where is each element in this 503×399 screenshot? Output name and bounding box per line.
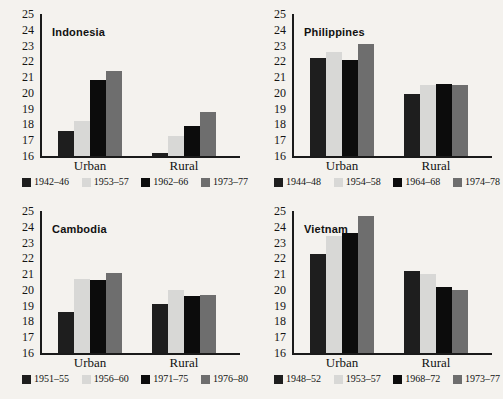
legend-item: 1953–57: [82, 177, 129, 187]
legend-label: 1953–57: [346, 374, 381, 384]
bar: [358, 216, 374, 353]
y-axis-tick-label: 23: [252, 40, 286, 52]
legend-label: 1942–46: [34, 177, 69, 187]
legend-swatch-icon: [141, 178, 150, 187]
y-axis-tick-label: 17: [0, 331, 34, 343]
bar-group-urban: [58, 14, 122, 156]
y-axis-tick-label: 24: [252, 221, 286, 233]
legend-label: 1971–75: [153, 374, 188, 384]
bar: [436, 287, 452, 353]
y-axis-tick-label: 17: [252, 134, 286, 146]
x-axis-line: [292, 353, 492, 355]
legend-swatch-icon: [82, 375, 91, 384]
y-axis-tick-label: 24: [252, 24, 286, 36]
x-axis-category-label: Rural: [401, 159, 471, 173]
chart-panel-vietnam: 16171819202122232425VietnamUrbanRural194…: [252, 197, 503, 396]
plot-area: [40, 211, 238, 353]
y-axis-tick-label: 16: [0, 347, 34, 359]
x-axis-line: [40, 353, 240, 355]
legend: 1944–481954–581964–681974–78: [274, 177, 500, 187]
bar: [74, 121, 90, 156]
bar: [200, 112, 216, 156]
bar: [106, 273, 122, 353]
y-axis-tick-label: 20: [252, 87, 286, 99]
legend-item: 1974–78: [453, 177, 500, 187]
legend-item: 1964–68: [393, 177, 440, 187]
plot-area: [292, 211, 490, 353]
y-axis-tick-label: 18: [252, 118, 286, 130]
y-axis-tick-label: 20: [0, 87, 34, 99]
bar: [420, 85, 436, 156]
y-axis-tick-label: 21: [252, 71, 286, 83]
x-axis-category-label: Urban: [307, 356, 377, 370]
bar: [58, 312, 74, 353]
y-axis-tick-label: 25: [252, 8, 286, 20]
legend-swatch-icon: [334, 375, 343, 384]
y-axis-tick-label: 22: [0, 252, 34, 264]
bar: [452, 85, 468, 156]
x-axis-category-label: Rural: [149, 356, 219, 370]
legend: 1948–521953–571968–721973–77: [274, 374, 500, 384]
y-axis-tick-label: 16: [252, 347, 286, 359]
bar-group-rural: [152, 211, 216, 353]
bar: [90, 80, 106, 156]
plot-area: [40, 14, 238, 156]
legend-swatch-icon: [82, 178, 91, 187]
legend-item: 1954–58: [334, 177, 381, 187]
legend-item: 1973–77: [453, 374, 500, 384]
bar: [404, 94, 420, 156]
bar: [74, 279, 90, 353]
legend-label: 1944–48: [286, 177, 321, 187]
legend: 1951–551956–601971–751976–80: [22, 374, 248, 384]
legend-label: 1948–52: [286, 374, 321, 384]
legend-swatch-icon: [141, 375, 150, 384]
legend-swatch-icon: [453, 375, 462, 384]
legend-swatch-icon: [274, 178, 283, 187]
x-axis-line: [292, 156, 492, 158]
y-axis-tick-label: 18: [252, 315, 286, 327]
bar: [358, 44, 374, 156]
legend-item: 1973–77: [201, 177, 248, 187]
legend-item: 1976–80: [201, 374, 248, 384]
y-axis-tick-label: 19: [0, 300, 34, 312]
chart-sheet: 16171819202122232425IndonesiaUrbanRural1…: [0, 0, 503, 399]
legend-swatch-icon: [453, 178, 462, 187]
bar: [90, 280, 106, 353]
bar: [58, 131, 74, 156]
y-axis-tick-label: 19: [252, 300, 286, 312]
bar: [342, 60, 358, 156]
bar: [452, 290, 468, 353]
chart-panel-indonesia: 16171819202122232425IndonesiaUrbanRural1…: [0, 0, 251, 199]
y-axis-tick-label: 19: [0, 103, 34, 115]
legend-swatch-icon: [334, 178, 343, 187]
y-axis-tick-label: 16: [252, 150, 286, 162]
bar: [342, 233, 358, 353]
legend-label: 1964–68: [405, 177, 440, 187]
x-axis-category-label: Urban: [55, 159, 125, 173]
bar: [310, 58, 326, 156]
bar: [310, 254, 326, 353]
y-axis-tick-label: 25: [252, 205, 286, 217]
bar: [106, 71, 122, 156]
legend-swatch-icon: [201, 375, 210, 384]
legend-swatch-icon: [201, 178, 210, 187]
y-axis-tick-label: 17: [252, 331, 286, 343]
legend-label: 1974–78: [465, 177, 500, 187]
legend-label: 1954–58: [346, 177, 381, 187]
y-axis-tick-label: 18: [0, 315, 34, 327]
legend-label: 1962–66: [153, 177, 188, 187]
y-axis-tick-label: 21: [0, 71, 34, 83]
y-axis-tick-label: 21: [0, 268, 34, 280]
x-axis-category-label: Urban: [55, 356, 125, 370]
legend-swatch-icon: [393, 178, 402, 187]
bar: [420, 274, 436, 353]
x-axis-category-label: Rural: [401, 356, 471, 370]
legend-label: 1968–72: [405, 374, 440, 384]
plot-area: [292, 14, 490, 156]
bar: [326, 52, 342, 156]
legend-item: 1942–46: [22, 177, 69, 187]
legend-swatch-icon: [393, 375, 402, 384]
bar: [184, 296, 200, 353]
bar: [404, 271, 420, 353]
y-axis-tick-label: 17: [0, 134, 34, 146]
